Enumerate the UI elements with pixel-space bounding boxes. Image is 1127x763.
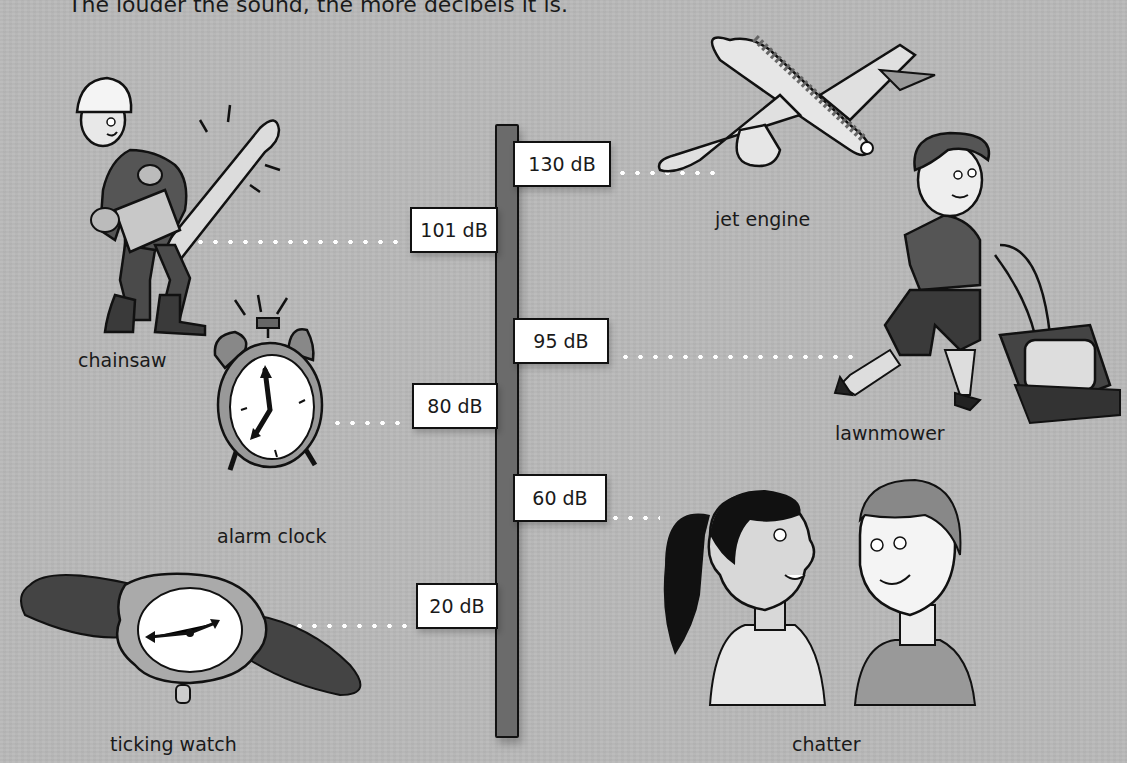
connector-dots-lawnmower: [618, 355, 858, 359]
chainsaw-label: chainsaw: [78, 349, 167, 371]
sign-95-db: 95 dB: [513, 318, 609, 364]
chatter-label: chatter: [792, 733, 861, 755]
sign-20-db: 20 dB: [416, 583, 498, 629]
connector-dots-chatter: [608, 516, 660, 520]
chatter-illustration: [655, 475, 995, 715]
decibel-pole: [495, 124, 519, 738]
lawnmower-illustration: [830, 125, 1125, 425]
sign-80-db: 80 dB: [412, 383, 498, 429]
sign-101-db: 101 dB: [410, 207, 498, 253]
intro-text: The louder the sound, the more decibels …: [68, 0, 568, 17]
ticking-watch-illustration: [10, 565, 380, 705]
alarm-clock-label: alarm clock: [217, 525, 326, 547]
sign-60-db: 60 dB: [513, 474, 607, 522]
jet-engine-label: jet engine: [715, 208, 810, 230]
alarm-clock-illustration: [195, 290, 345, 490]
lawnmower-label: lawnmower: [835, 422, 945, 444]
ticking-watch-label: ticking watch: [110, 733, 237, 755]
sign-130-db: 130 dB: [513, 141, 611, 187]
